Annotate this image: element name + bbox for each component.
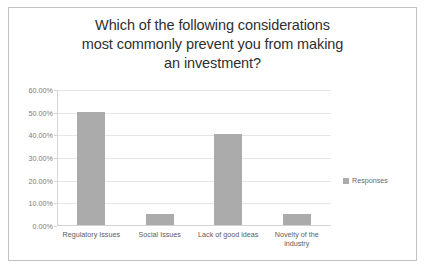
y-axis-tick bbox=[54, 158, 57, 159]
y-axis-tick-label: 60.00% bbox=[9, 86, 53, 95]
y-axis-tick-label: 20.00% bbox=[9, 176, 53, 185]
chart-container: Which of the following considerations mo… bbox=[8, 7, 417, 261]
y-axis-tick-label: 10.00% bbox=[9, 199, 53, 208]
y-axis-tick bbox=[54, 226, 57, 227]
legend: Responses bbox=[343, 176, 388, 185]
bar[interactable] bbox=[146, 214, 174, 225]
x-axis-category-label: Novelty of the industry bbox=[263, 230, 332, 248]
y-axis-line bbox=[57, 90, 58, 226]
bar[interactable] bbox=[77, 112, 105, 225]
bar[interactable] bbox=[283, 214, 311, 225]
x-axis-category-label: Social Issues bbox=[126, 230, 195, 239]
y-axis-tick bbox=[54, 113, 57, 114]
chart-title-line-2: most commonly prevent you from making bbox=[35, 35, 390, 54]
y-axis-tick-label: 40.00% bbox=[9, 131, 53, 140]
gridline bbox=[57, 90, 331, 91]
legend-swatch-icon bbox=[343, 178, 349, 184]
y-axis-tick bbox=[54, 135, 57, 136]
chart-title: Which of the following considerations mo… bbox=[35, 16, 390, 73]
y-axis-tick-label: 50.00% bbox=[9, 108, 53, 117]
plot-area bbox=[57, 90, 331, 226]
chart-title-line-1: Which of the following considerations bbox=[35, 16, 390, 35]
x-axis-category-label: Regulatory Issues bbox=[57, 230, 126, 239]
y-axis-tick bbox=[54, 90, 57, 91]
x-axis-line bbox=[57, 225, 331, 226]
y-axis-tick bbox=[54, 181, 57, 182]
y-axis-tick bbox=[54, 203, 57, 204]
legend-label: Responses bbox=[352, 176, 388, 185]
y-axis-labels: 0.00% 10.00% 20.00% 30.00% 40.00% 50.00%… bbox=[9, 90, 53, 226]
y-axis-tick-label: 30.00% bbox=[9, 154, 53, 163]
chart-title-line-3: an investment? bbox=[35, 54, 390, 73]
bar[interactable] bbox=[214, 134, 242, 225]
y-axis-tick-label: 0.00% bbox=[9, 222, 53, 231]
x-axis-category-label: Lack of good ideas bbox=[194, 230, 263, 239]
